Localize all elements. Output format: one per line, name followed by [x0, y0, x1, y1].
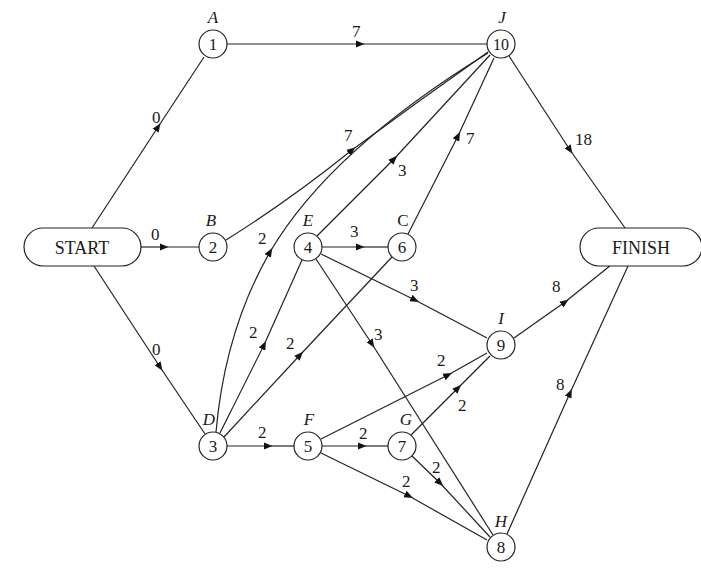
- weight-c-j: 7: [466, 129, 475, 148]
- node-letter: F: [303, 410, 315, 429]
- edge-g-i: [411, 356, 490, 435]
- node-letter: C: [397, 211, 408, 230]
- node-number: 8: [497, 538, 506, 557]
- node-number: 7: [398, 437, 407, 456]
- weight-g-h: 2: [432, 458, 441, 477]
- edge-e-i: [321, 254, 487, 338]
- node-number: 4: [304, 238, 313, 257]
- weight-a-j: 7: [352, 22, 361, 41]
- node-c: 6 C: [388, 211, 416, 261]
- weight-e-h: 3: [374, 325, 383, 344]
- edge-start-d: [94, 266, 205, 434]
- node-number: 6: [398, 238, 407, 257]
- weight-f-i: 2: [437, 351, 446, 370]
- node-number: 2: [209, 238, 218, 257]
- node-j: 10 J: [487, 8, 515, 58]
- node-letter: A: [207, 8, 219, 27]
- weight-h-finish: 8: [556, 375, 565, 394]
- node-number: 1: [209, 35, 218, 54]
- finish-node: FINISH: [580, 228, 701, 266]
- node-letter: J: [498, 8, 507, 27]
- node-h: 8 H: [487, 512, 515, 561]
- start-node: START: [24, 228, 141, 266]
- node-number: 3: [209, 437, 218, 456]
- edge-i-finish: [514, 265, 611, 338]
- weight-e-i: 3: [410, 276, 419, 295]
- weight-d-c: 2: [286, 334, 295, 353]
- node-letter: H: [494, 512, 509, 531]
- weight-g-i: 2: [458, 396, 467, 415]
- edge-start-a: [92, 57, 204, 228]
- edge-c-j: [408, 58, 494, 234]
- weight-j-finish: 18: [575, 130, 592, 149]
- edge-h-finish: [507, 266, 628, 534]
- edge-b-j: [226, 52, 488, 240]
- node-d: 3 D: [199, 410, 227, 460]
- node-b: 2 B: [199, 211, 227, 261]
- node-letter: I: [497, 309, 505, 328]
- node-number: 5: [304, 437, 313, 456]
- weight-f-h: 2: [402, 472, 411, 491]
- weight-b-j: 7: [344, 126, 353, 145]
- weight-d-f: 2: [258, 423, 267, 442]
- node-number: 10: [493, 36, 509, 53]
- node-number: 9: [497, 336, 506, 355]
- node-a: 1 A: [199, 8, 227, 58]
- weight-e-j: 3: [398, 161, 407, 180]
- edge-f-h: [321, 453, 487, 540]
- node-letter: G: [400, 410, 412, 429]
- weight-start-b: 0: [151, 225, 160, 244]
- weight-d-j: 2: [258, 229, 267, 248]
- node-letter: D: [202, 410, 216, 429]
- node-letter: E: [302, 211, 314, 230]
- edge-j-finish: [509, 56, 625, 228]
- network-diagram: 0 0 0 7 7 2 3 7 2 2 3 3 3 2 2 2 2 2 2 18…: [0, 0, 701, 571]
- node-i: 9 I: [487, 309, 515, 359]
- weight-start-a: 0: [152, 108, 161, 127]
- finish-label: FINISH: [612, 238, 670, 258]
- weight-f-g: 2: [359, 424, 368, 443]
- start-label: START: [55, 238, 109, 258]
- weight-d-e: 2: [249, 323, 258, 342]
- edge-e-j: [317, 55, 490, 236]
- weight-e-c: 3: [350, 222, 359, 241]
- node-f: 5 F: [294, 410, 322, 460]
- node-letter: B: [206, 211, 217, 230]
- weight-start-d: 0: [152, 340, 161, 359]
- weight-i-finish: 8: [552, 277, 561, 296]
